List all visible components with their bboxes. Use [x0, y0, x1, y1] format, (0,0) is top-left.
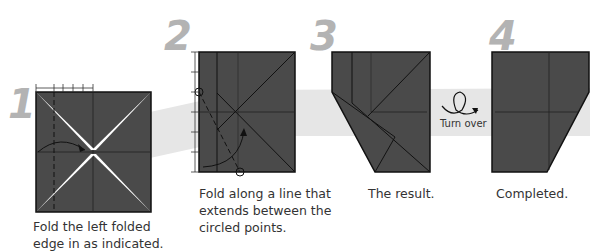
- step1-caption: Fold the left folded edge in as indicate…: [33, 218, 164, 252]
- step-number-1: 1: [8, 84, 36, 124]
- step-number-3: 3: [310, 16, 338, 56]
- step1-figure: [36, 84, 151, 212]
- step3-caption: The result.: [368, 185, 435, 202]
- step3-figure: [332, 52, 430, 172]
- step4-caption: Completed.: [496, 185, 568, 202]
- step2-figure: [191, 52, 295, 176]
- step4-figure: [492, 52, 589, 172]
- step2-caption: Fold along a line that extends between t…: [199, 185, 331, 236]
- step-number-4: 4: [489, 16, 517, 56]
- turn-over-label: Turn over: [440, 118, 487, 129]
- step-number-2: 2: [164, 16, 192, 56]
